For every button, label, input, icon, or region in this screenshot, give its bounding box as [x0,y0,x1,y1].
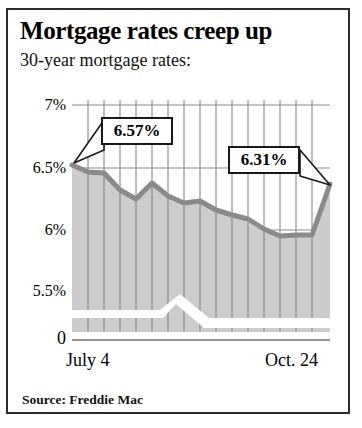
end-callout: 6.31% [228,146,300,174]
start-callout: 6.57% [101,117,173,145]
source-note: Source: Freddie Mac [22,392,143,408]
end-callout-pointer [300,150,330,185]
callout-leaders [0,0,362,428]
start-callout-pointer [74,120,104,163]
